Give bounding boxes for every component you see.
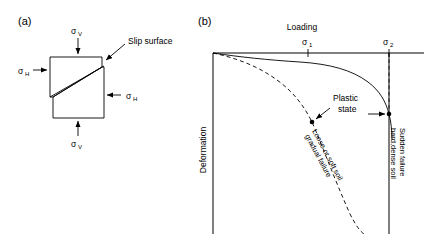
sigma-2-symbol: σ — [383, 37, 389, 47]
sigma-2-label: σ 2 — [383, 37, 394, 48]
sigma-v-bottom-subscript: V — [78, 144, 82, 150]
slip-surface-label: Slip surface — [128, 36, 173, 46]
figure-container: (a) σ V σ V σ H σ H Slip surface (b) Loa… — [0, 0, 438, 234]
panel-a-label: (a) — [18, 15, 31, 27]
sigma-h-left-subscript: H — [25, 71, 29, 77]
sigma-v-top-label: σ V — [71, 26, 82, 37]
sigma-h-right-subscript: H — [133, 96, 137, 102]
sigma-v-top-subscript: V — [78, 31, 82, 37]
plastic-state-line1: Plastic — [333, 93, 359, 103]
dense-soil-annotation-line1: Sudden failure — [398, 128, 407, 176]
dense-soil-annotation-line2: hard,dense soil — [389, 128, 398, 179]
sigma-h-right-symbol: σ — [126, 91, 132, 101]
sigma-h-left-symbol: σ — [18, 66, 24, 76]
sigma-1-label: σ 1 — [302, 37, 313, 48]
loading-axis-title: Loading — [287, 22, 318, 32]
sigma-1-symbol: σ — [302, 37, 308, 47]
sigma-v-top-symbol: σ — [71, 26, 77, 36]
plastic-state-line2: state — [338, 104, 357, 114]
sigma-v-bottom-label: σ V — [71, 139, 82, 150]
deformation-axis-title: Deformation — [198, 127, 208, 174]
sigma-1-subscript: 1 — [309, 42, 313, 48]
panel-b-label: (b) — [198, 15, 211, 27]
sigma-h-right-label: σ H — [126, 91, 137, 102]
sigma-2-subscript: 2 — [390, 42, 394, 48]
sigma-v-bottom-symbol: σ — [71, 139, 77, 149]
figure-text-layer: (a) σ V σ V σ H σ H Slip surface (b) Loa… — [0, 0, 438, 234]
sigma-h-left-label: σ H — [18, 66, 29, 77]
